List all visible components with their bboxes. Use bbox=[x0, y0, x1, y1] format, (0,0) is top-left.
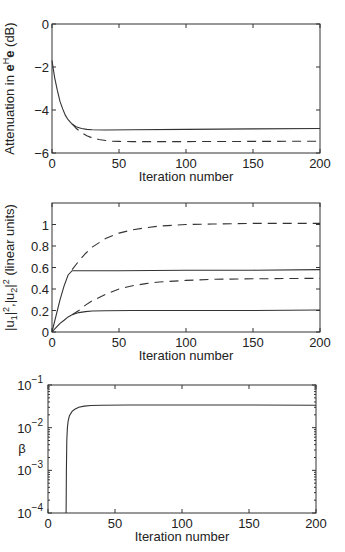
y-tick-label: 0 bbox=[42, 325, 49, 340]
x-tick-label: 150 bbox=[242, 335, 264, 350]
x-tick-label: 0 bbox=[44, 516, 51, 531]
axes-frame bbox=[52, 203, 320, 332]
series-line-solid bbox=[52, 61, 320, 131]
y-tick-label: −6 bbox=[34, 146, 49, 161]
series-line-dashed bbox=[72, 124, 320, 142]
series-line-dashed bbox=[72, 223, 320, 269]
series-line-solid bbox=[66, 405, 316, 513]
x-tick-label: 50 bbox=[112, 335, 126, 350]
y-axis-label: Attenuation in eHe (dB) bbox=[1, 22, 17, 154]
attenuation-plot: 050100150200Iteration number0−2−4−6Atten… bbox=[1, 17, 331, 184]
x-tick-label: 50 bbox=[108, 516, 122, 531]
y-tick-label: 0.2 bbox=[31, 304, 49, 319]
y-tick-label: −4 bbox=[34, 103, 49, 118]
series-line-dashed bbox=[72, 278, 320, 315]
figure: 050100150200Iteration number0−2−4−6Atten… bbox=[0, 0, 345, 552]
y-tick-label: 0.4 bbox=[31, 282, 49, 297]
y-tick-label: −2 bbox=[34, 60, 49, 75]
y-tick-label: 10−2 bbox=[17, 417, 43, 436]
x-tick-label: 50 bbox=[112, 156, 126, 171]
x-tick-label: 150 bbox=[238, 516, 260, 531]
x-tick-label: 150 bbox=[242, 156, 264, 171]
y-tick-label: 10−3 bbox=[17, 459, 43, 478]
x-tick-label: 200 bbox=[309, 156, 331, 171]
axes-frame bbox=[52, 24, 320, 153]
y-tick-label: 10−4 bbox=[17, 502, 43, 521]
beta-plot: 050100150200Iteration number10−110−210−3… bbox=[17, 374, 327, 544]
y-tick-label: 0.6 bbox=[31, 261, 49, 276]
y-axis-label: |u1|2,|u2|2 (linear units) bbox=[1, 204, 19, 331]
x-axis-label: Iteration number bbox=[139, 348, 234, 363]
x-tick-label: 0 bbox=[48, 156, 55, 171]
x-tick-label: 0 bbox=[48, 335, 55, 350]
y-tick-label: 0.8 bbox=[31, 239, 49, 254]
x-axis-label: Iteration number bbox=[139, 169, 234, 184]
x-axis-label: Iteration number bbox=[135, 529, 230, 544]
axes-frame bbox=[48, 385, 316, 513]
y-tick-label: 0 bbox=[42, 17, 49, 32]
u-power-plot: 050100150200Iteration number00.20.40.60.… bbox=[1, 203, 331, 363]
x-tick-label: 200 bbox=[305, 516, 327, 531]
y-tick-label: 10−1 bbox=[17, 374, 43, 393]
y-tick-label: 1 bbox=[42, 218, 49, 233]
x-tick-label: 200 bbox=[309, 335, 331, 350]
y-axis-label: β bbox=[18, 441, 25, 456]
